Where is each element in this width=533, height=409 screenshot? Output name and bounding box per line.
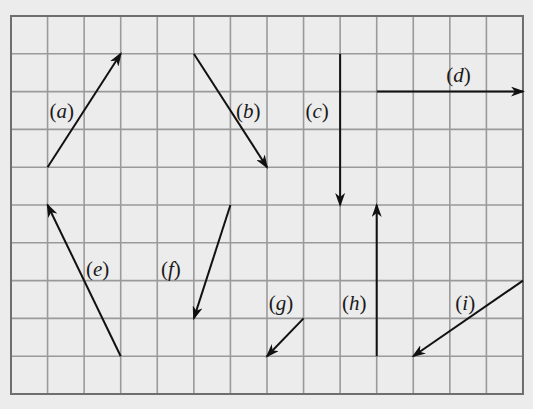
vector-label-d: (d) (446, 63, 471, 87)
vector-label-e: (e) (86, 257, 109, 281)
vector-label-i: (i) (455, 291, 475, 315)
vector-grid-diagram: (a)(b)(c)(d)(e)(f)(g)(h)(i) (0, 0, 533, 409)
vector-label-b: (b) (236, 99, 261, 123)
vector-label-g: (g) (269, 291, 294, 315)
vector-label-a: (a) (49, 99, 74, 123)
vector-label-h: (h) (342, 291, 367, 315)
vector-label-f: (f) (161, 257, 181, 281)
vector-label-c: (c) (305, 99, 328, 123)
